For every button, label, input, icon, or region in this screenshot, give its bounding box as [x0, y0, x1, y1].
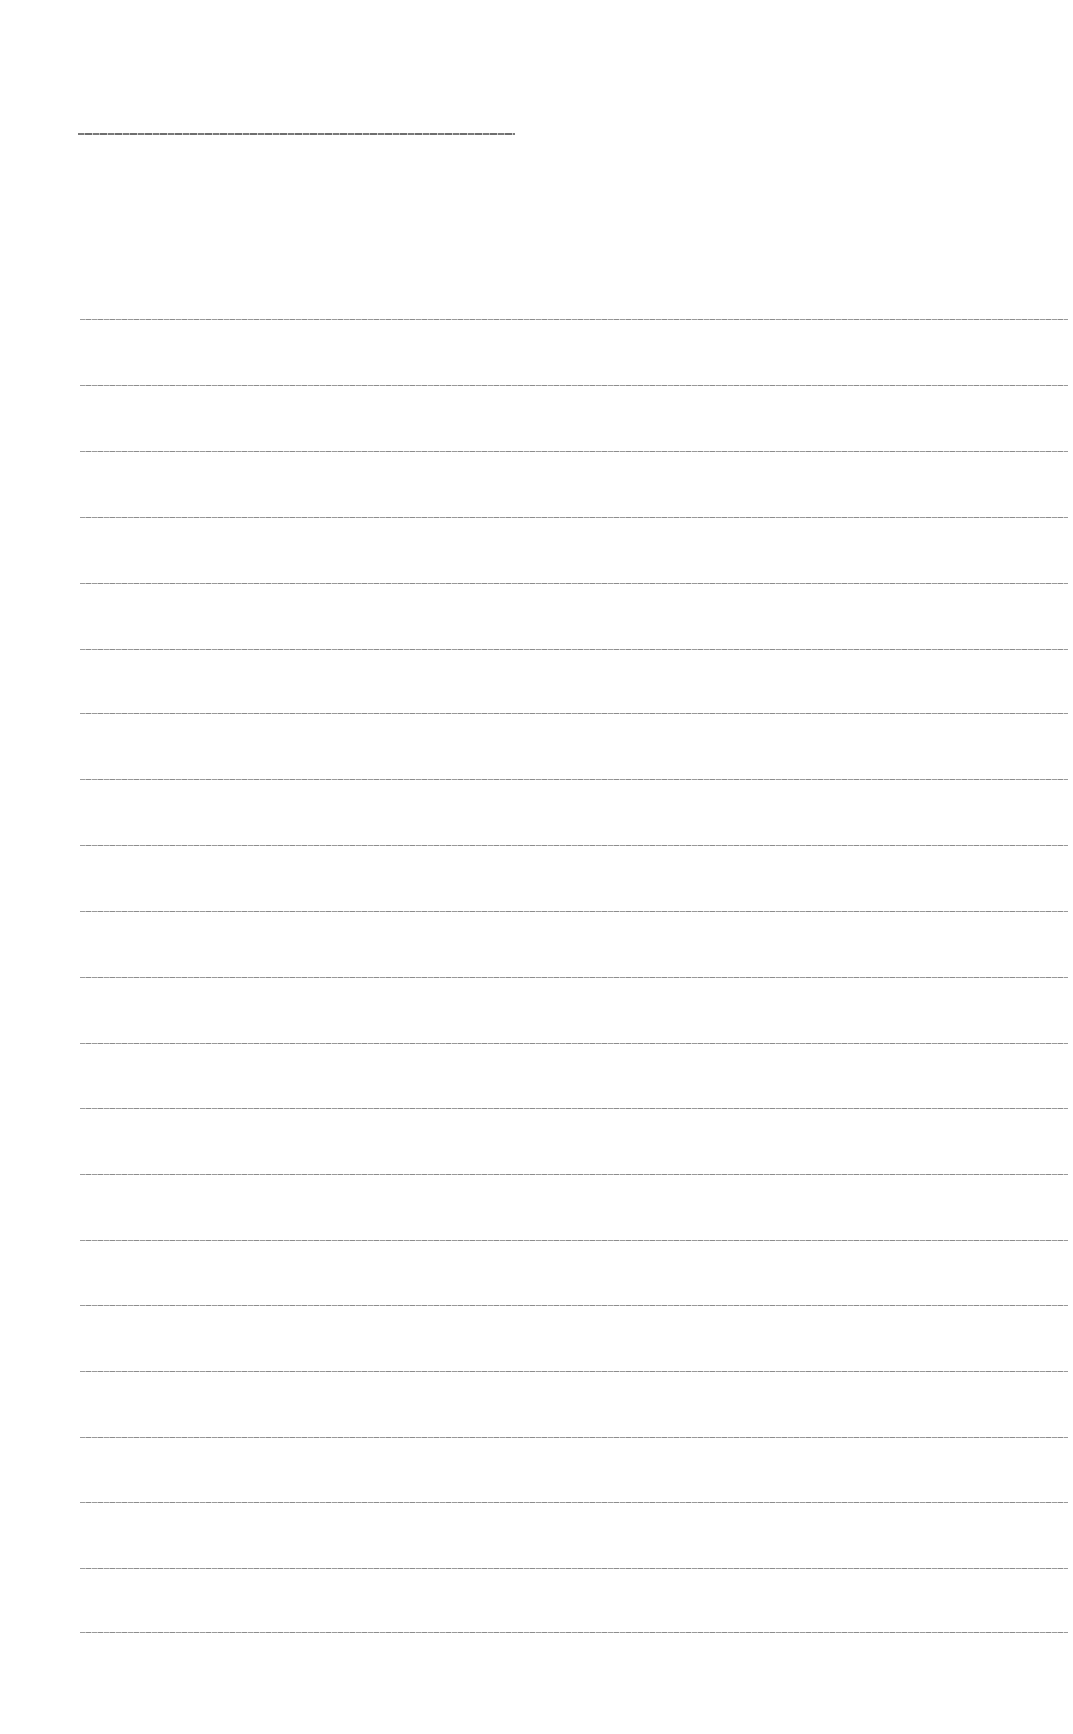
text-stroke [80, 1174, 1068, 1175]
text-stroke [80, 1305, 1068, 1306]
text-line: [illegible text line 9] [80, 844, 1068, 848]
text-line: [illegible text line 14] [80, 1173, 1068, 1177]
text-stroke [80, 319, 1068, 320]
text-stroke [80, 1632, 1068, 1633]
text-stroke [80, 583, 1068, 584]
text-stroke [80, 713, 1068, 714]
text-line: [illegible text line 18] [80, 1436, 1068, 1440]
text-stroke [80, 649, 1068, 650]
text-line: [illegible text line 6] [80, 648, 1068, 652]
text-line: [illegible text line 11] [80, 976, 1068, 980]
text-line: [illegible text line 13] [80, 1107, 1068, 1111]
text-stroke [80, 1371, 1068, 1372]
text-stroke [80, 845, 1068, 846]
text-line: [illegible text line 2] [80, 384, 1068, 388]
text-line: [illegible text line 3] [80, 450, 1068, 454]
text-stroke [80, 1502, 1068, 1503]
text-line: [illegible text line 17] [80, 1370, 1068, 1374]
document-title: [illegible title line] [78, 132, 515, 136]
text-line: [illegible text line 10] [80, 910, 1068, 914]
text-stroke [80, 977, 1068, 978]
text-line: [illegible text line 21] [80, 1631, 1068, 1635]
text-line: [illegible text line 20] [80, 1567, 1068, 1571]
text-line: [illegible text line 5] [80, 582, 1068, 586]
title-text-stroke [78, 133, 515, 135]
text-stroke [80, 1437, 1068, 1438]
text-line: [illegible text line 16] [80, 1304, 1068, 1308]
text-stroke [80, 1240, 1068, 1241]
text-stroke [80, 779, 1068, 780]
text-line: [illegible text line 4] [80, 516, 1068, 520]
text-stroke [80, 451, 1068, 452]
document-page: [illegible title line] [illegible text l… [0, 0, 1073, 1734]
text-line: [illegible text line 12] [80, 1042, 1068, 1046]
text-line: [illegible text line 19] [80, 1501, 1068, 1505]
text-stroke [80, 1568, 1068, 1569]
text-line: [illegible text line 8] [80, 778, 1068, 782]
text-stroke [80, 385, 1068, 386]
text-stroke [80, 1043, 1068, 1044]
text-stroke [80, 1108, 1068, 1109]
text-stroke [80, 517, 1068, 518]
text-stroke [80, 911, 1068, 912]
text-line: [illegible text line 15] [80, 1239, 1068, 1243]
text-line: [illegible text line 7] [80, 712, 1068, 716]
text-line: [illegible text line 1] [80, 318, 1068, 322]
